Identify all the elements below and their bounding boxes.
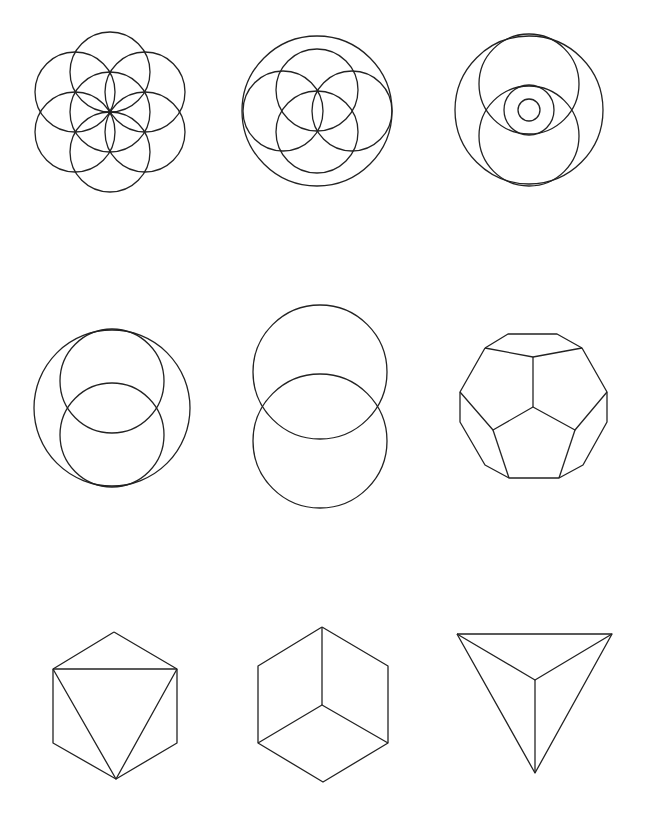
circle-shape [504, 85, 554, 135]
circle-shape [243, 71, 323, 151]
circle-shape [253, 305, 387, 439]
dodecahedron-figure [460, 334, 607, 478]
circle-shape [34, 330, 190, 486]
circle-shape [242, 36, 392, 186]
sacred-geometry-figure-grid [0, 0, 648, 819]
circle-shape [455, 36, 603, 184]
circle-shape [479, 86, 579, 186]
octahedron-figure [53, 632, 177, 779]
circle-shape [60, 329, 164, 433]
edge-line [258, 627, 388, 782]
enclosed-four-circles-figure [242, 36, 392, 186]
edge-line [53, 669, 177, 779]
edge-line [457, 634, 612, 680]
seed-of-life-figure [35, 32, 185, 192]
circle-shape [479, 34, 579, 134]
circle-shape [518, 99, 540, 121]
edge-line [485, 348, 582, 357]
edge-line [258, 705, 388, 743]
edge-line [53, 632, 177, 779]
circle-shape [253, 374, 387, 508]
vesica-in-circle-figure [34, 329, 190, 487]
eye-vesica-figure [455, 34, 603, 186]
cube-figure [258, 627, 388, 782]
tetrahedron-figure [457, 634, 612, 773]
circle-shape [60, 383, 164, 487]
vesica-piscis-figure [253, 305, 387, 508]
